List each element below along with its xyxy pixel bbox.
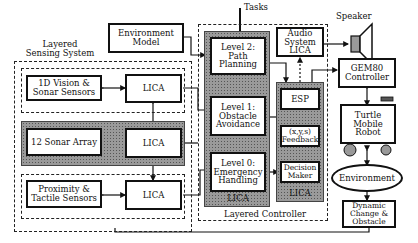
tasks-label: Tasks	[244, 3, 268, 12]
level-2-box: Level 2: Path Planning	[210, 37, 266, 75]
sensor-box: 12 Sonar Array	[26, 128, 102, 156]
lica-box: LICA	[125, 180, 182, 210]
esp-lica-label: LICA	[283, 189, 317, 198]
decision-maker-box: Decision Maker	[280, 161, 320, 183]
level-1-box: Level 1: Obstacle Avoidance	[210, 96, 266, 136]
sensor-box: 1D Vision & Sonar Sensors	[26, 75, 102, 101]
gem80-controller-box: GEM80 Controller	[338, 58, 396, 88]
speaker-label: Speaker	[336, 12, 372, 21]
feedback-box: (x,y,s) Feedback	[280, 125, 320, 147]
level-0-box: Level 0: Emergency Handling	[210, 152, 266, 192]
lica-box: LICA	[125, 74, 182, 103]
turtle-robot-box: Turtle Mobile Robot	[340, 104, 396, 144]
esp-box: ESP	[280, 88, 320, 110]
controller-title: Layered Controller	[220, 210, 310, 219]
audio-system-box: Audio System LICA	[276, 27, 324, 57]
environment-model-box: Environment Model	[108, 23, 184, 53]
lica-box: LICA	[125, 128, 182, 158]
dynamic-change-box: Dynamic Change & Obstacle	[342, 200, 396, 228]
levels-lica-label: LICA	[218, 194, 258, 203]
environment-ellipse: Environment	[331, 164, 403, 192]
sensing-system-title: Layered Sensing System	[25, 40, 95, 59]
sensor-box: Proximity & Tactile Sensors	[26, 180, 102, 208]
